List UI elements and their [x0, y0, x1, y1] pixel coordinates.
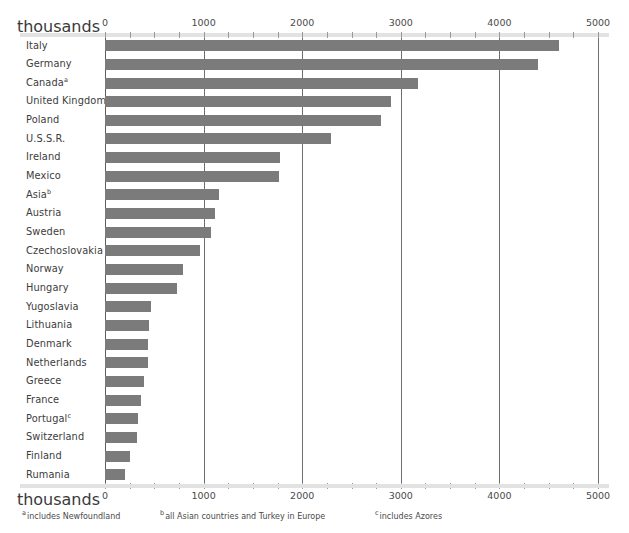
bar-row: Ireland	[0, 149, 629, 168]
category-label-mexico: Mexico	[0, 170, 96, 181]
bottom-axis: thousands010002000300040005000	[0, 489, 629, 505]
footnote-b: ball Asian countries and Turkey in Europ…	[160, 512, 325, 521]
bar-canada	[105, 78, 418, 89]
category-label-germany: Germany	[0, 58, 96, 69]
x-tick-label-5000-bottom: 5000	[586, 490, 610, 501]
bar-switzerland	[105, 432, 137, 443]
bar-row: Greece	[0, 373, 629, 392]
x-tick-label-2000-top: 2000	[290, 17, 314, 28]
bar-row: Italy	[0, 37, 629, 56]
bar-row: Germany	[0, 56, 629, 75]
bottom-axis-rule	[20, 484, 609, 488]
category-label-italy: Italy	[0, 40, 96, 51]
bar-rumania	[105, 469, 125, 480]
bar-finland	[105, 451, 130, 462]
bar-row: Canadaa	[0, 74, 629, 93]
category-label-poland: Poland	[0, 114, 96, 125]
x-tick-label-3000-top: 3000	[389, 17, 413, 28]
x-tick-label-1000-top: 1000	[192, 17, 216, 28]
footnote-c: cincludes Azores	[375, 512, 442, 521]
x-tick-label-0-bottom: 0	[102, 490, 108, 501]
bar-poland	[105, 115, 381, 126]
bar-row: Switzerland	[0, 429, 629, 448]
footnote-marker-c: c	[67, 411, 71, 419]
bar-row: Czechoslovakia	[0, 242, 629, 261]
category-label-hungary: Hungary	[0, 282, 96, 293]
bar-row: Poland	[0, 112, 629, 131]
category-label-u-s-s-r: U.S.S.R.	[0, 133, 96, 144]
bar-germany	[105, 59, 538, 70]
footnote-marker-b: b	[47, 188, 51, 196]
bar-row: Yugoslavia	[0, 298, 629, 317]
x-tick-label-1000-bottom: 1000	[192, 490, 216, 501]
bar-france	[105, 395, 141, 406]
bar-norway	[105, 264, 183, 275]
bar-row: Finland	[0, 448, 629, 467]
x-tick-label-0-top: 0	[102, 17, 108, 28]
bar-row: Denmark	[0, 336, 629, 355]
bar-row: Mexico	[0, 168, 629, 187]
category-label-yugoslavia: Yugoslavia	[0, 301, 96, 312]
bar-denmark	[105, 339, 148, 350]
bar-row: Norway	[0, 261, 629, 280]
x-tick-label-5000-top: 5000	[586, 17, 610, 28]
top-axis: thousands010002000300040005000	[0, 16, 629, 32]
bar-row: Lithuania	[0, 317, 629, 336]
bar-ireland	[105, 152, 280, 163]
footnote-marker-b: b	[160, 509, 164, 517]
axis-unit-label-bottom: thousands	[0, 490, 100, 509]
bar-row: Sweden	[0, 224, 629, 243]
bar-czechoslovakia	[105, 245, 200, 256]
bar-row: Netherlands	[0, 354, 629, 373]
bar-yugoslavia	[105, 301, 151, 312]
bar-row: Rumania	[0, 466, 629, 485]
bar-u-s-s-r	[105, 133, 331, 144]
category-label-ireland: Ireland	[0, 151, 96, 162]
category-label-norway: Norway	[0, 263, 96, 274]
bar-row: Asiab	[0, 186, 629, 205]
bar-hungary	[105, 283, 177, 294]
category-label-austria: Austria	[0, 207, 96, 218]
category-label-france: France	[0, 394, 96, 405]
category-label-finland: Finland	[0, 450, 96, 461]
bar-netherlands	[105, 357, 148, 368]
category-label-rumania: Rumania	[0, 469, 96, 480]
category-label-sweden: Sweden	[0, 226, 96, 237]
category-label-united-kingdom: United Kingdom	[0, 95, 96, 106]
bar-row: U.S.S.R.	[0, 130, 629, 149]
bar-greece	[105, 376, 144, 387]
category-label-asia: Asiab	[0, 189, 96, 200]
axis-unit-text: thousands	[17, 490, 100, 509]
category-label-denmark: Denmark	[0, 338, 96, 349]
footnote-marker-a: a	[22, 509, 26, 517]
x-tick-label-4000-bottom: 4000	[487, 490, 511, 501]
footnote-marker-a: a	[64, 76, 68, 84]
bar-asia	[105, 189, 219, 200]
bar-italy	[105, 40, 559, 51]
bar-row: Hungary	[0, 280, 629, 299]
footnote-marker-c: c	[375, 509, 379, 517]
bar-row: United Kingdom	[0, 93, 629, 112]
bar-austria	[105, 208, 215, 219]
bar-row: France	[0, 392, 629, 411]
category-label-portugal: Portugalc	[0, 413, 96, 424]
bar-sweden	[105, 227, 211, 238]
category-label-netherlands: Netherlands	[0, 357, 96, 368]
bar-chart: thousands010002000300040005000 ItalyGerm…	[0, 0, 629, 533]
x-tick-label-2000-bottom: 2000	[290, 490, 314, 501]
category-label-switzerland: Switzerland	[0, 431, 96, 442]
category-label-czechoslovakia: Czechoslovakia	[0, 245, 96, 256]
category-label-lithuania: Lithuania	[0, 319, 96, 330]
category-label-greece: Greece	[0, 375, 96, 386]
plot-area: ItalyGermanyCanadaaUnited KingdomPolandU…	[0, 37, 629, 484]
bar-row: Austria	[0, 205, 629, 224]
x-tick-label-3000-bottom: 3000	[389, 490, 413, 501]
footnotes: aincludes Newfoundlandball Asian countri…	[0, 512, 629, 528]
bar-portugal	[105, 413, 138, 424]
bar-row: Portugalc	[0, 410, 629, 429]
category-label-canada: Canadaa	[0, 77, 96, 88]
bar-lithuania	[105, 320, 149, 331]
footnote-a: aincludes Newfoundland	[22, 512, 120, 521]
x-tick-label-4000-top: 4000	[487, 17, 511, 28]
bar-mexico	[105, 171, 279, 182]
